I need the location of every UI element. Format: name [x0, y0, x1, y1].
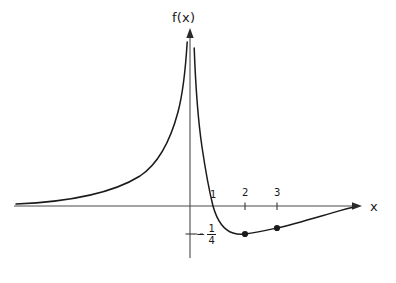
x-tick-label-1: 1	[210, 189, 216, 200]
x-tick-label-2: 2	[242, 187, 248, 198]
fraction-denominator: 4	[209, 236, 215, 245]
x-axis-arrowhead	[352, 202, 362, 210]
curve-left-branch	[16, 42, 187, 204]
point-minimum-x2	[242, 231, 248, 237]
y-axis-arrowhead	[186, 28, 193, 38]
function-graph-figure: f(x) x 1 2 3 − 1 4	[0, 0, 396, 283]
y-tick-label-minus-one-quarter: − 1 4	[196, 224, 216, 245]
fraction-stack: 1 4	[207, 224, 216, 245]
x-tick-label-3: 3	[274, 187, 280, 198]
fraction-numerator: 1	[209, 224, 215, 233]
axes-group	[14, 28, 362, 258]
x-axis-label: x	[370, 199, 378, 214]
fraction-minus-sign: −	[196, 229, 205, 240]
point-x3	[274, 225, 280, 231]
y-axis-label: f(x)	[172, 10, 195, 25]
